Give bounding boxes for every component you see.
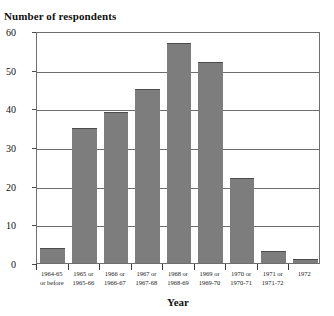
x-category-label-line2: 1969-70 xyxy=(194,279,226,288)
bar xyxy=(40,248,65,263)
x-category-label-line1: 1965 or xyxy=(73,270,93,277)
bar-chart-figure: Number of respondents 0102030405060 1964… xyxy=(0,0,334,316)
bar xyxy=(72,128,97,263)
x-category-label-line1: 1967 or xyxy=(136,270,156,277)
y-tick-label: 10 xyxy=(0,220,16,231)
x-category-label: 1965 or1965-66 xyxy=(68,270,100,287)
x-category-label: 1966 or1966-67 xyxy=(99,270,131,287)
bar xyxy=(230,178,255,263)
x-category-label-line1: 1969 or xyxy=(200,270,220,277)
x-category-label-line2: 1965-66 xyxy=(68,279,100,288)
y-tick-label: 50 xyxy=(0,65,16,76)
x-category-label-line2: 1966-67 xyxy=(99,279,131,288)
bar xyxy=(167,43,192,263)
y-axis-title: Number of respondents xyxy=(4,10,116,22)
x-category-label-line1: 1970 or xyxy=(231,270,251,277)
x-category-label: 1970 or1970-71 xyxy=(225,270,257,287)
x-category-label-line2: or before xyxy=(36,279,68,288)
x-category-label-line2: 1967-68 xyxy=(131,279,163,288)
bar xyxy=(198,62,223,263)
x-category-label-line1: 1966 or xyxy=(105,270,125,277)
x-category-label-line1: 1964-65 xyxy=(41,270,63,277)
x-category-label: 1972 xyxy=(288,270,320,279)
x-axis-title: Year xyxy=(36,296,320,308)
bar xyxy=(104,112,129,263)
y-tick-label: 60 xyxy=(0,27,16,38)
x-category-label-line1: 1968 or xyxy=(168,270,188,277)
y-tick-label: 40 xyxy=(0,104,16,115)
x-category-label: 1968 or1968-69 xyxy=(162,270,194,287)
x-category-label-line2: 1968-69 xyxy=(162,279,194,288)
x-category-label-line1: 1971 or xyxy=(263,270,283,277)
y-tick-label: 30 xyxy=(0,143,16,154)
bar xyxy=(135,89,160,263)
x-category-label: 1967 or1967-68 xyxy=(131,270,163,287)
y-tick-label: 0 xyxy=(0,259,16,270)
y-tick-label: 20 xyxy=(0,181,16,192)
plot-area xyxy=(36,32,320,264)
x-category-label: 1969 or1969-70 xyxy=(194,270,226,287)
x-category-label-line1: 1972 xyxy=(298,270,311,277)
x-category-label-line2: 1971-72 xyxy=(257,279,289,288)
x-category-label-line2: 1970-71 xyxy=(225,279,257,288)
bar xyxy=(293,259,318,263)
bar xyxy=(261,251,286,263)
x-category-label: 1971 or1971-72 xyxy=(257,270,289,287)
x-category-label: 1964-65or before xyxy=(36,270,68,287)
